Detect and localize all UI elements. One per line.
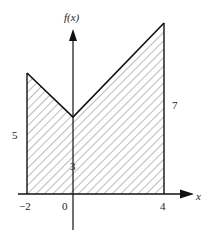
x-axis-arrow-icon xyxy=(180,190,194,199)
shaded-region xyxy=(27,23,164,194)
y-axis-arrow-icon xyxy=(69,29,77,41)
x-axis-label: x xyxy=(195,190,201,202)
height-label-right: 7 xyxy=(172,99,178,111)
y-axis-label: f(x) xyxy=(64,11,80,24)
height-label-center: 3 xyxy=(70,160,76,172)
tick-label-neg2: −2 xyxy=(19,200,31,212)
area-diagram: f(x) x −2 0 4 5 3 7 xyxy=(0,0,212,239)
tick-label-0: 0 xyxy=(62,200,68,212)
height-label-left: 5 xyxy=(12,129,18,141)
tick-label-4: 4 xyxy=(160,200,166,212)
